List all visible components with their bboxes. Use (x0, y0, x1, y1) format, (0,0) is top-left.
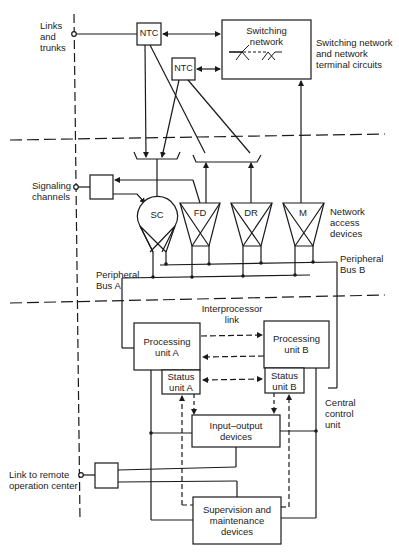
fd-label: FD (190, 207, 210, 218)
signaling-interface-box (90, 175, 113, 199)
section-divider-bottom (10, 295, 385, 303)
bus-b-label: Peripheral Bus B (340, 253, 383, 275)
switching-network-label: Switching network (222, 25, 311, 47)
input-output-label: Input–output devices (192, 420, 280, 442)
switching-section-label: Switching network and network terminal c… (316, 37, 393, 70)
dr-label: DR (241, 207, 261, 218)
sc-label: SC (147, 209, 167, 220)
links-trunks-label: Links and trunks (40, 20, 66, 53)
status-unit-b-label: Status unit B (265, 370, 304, 392)
ntc-1-label: NTC (137, 28, 161, 39)
processing-unit-a-label: Processing unit A (134, 336, 200, 358)
ntc-2-label: NTC (172, 63, 195, 74)
interprocessor-link-label: Interprocessor link (200, 303, 264, 325)
network-access-label: Network access devices (330, 206, 365, 239)
remote-link-label: Link to remote operation center (9, 469, 78, 491)
status-unit-a-label: Status unit A (162, 371, 200, 393)
remote-link-terminal (79, 473, 84, 478)
signaling-terminal (74, 185, 79, 190)
external-boundary-line (74, 14, 80, 520)
central-control-label: Central control unit (325, 397, 356, 430)
supervision-label: Supervision and maintenance devices (193, 504, 281, 537)
remote-link-interface-box (95, 463, 118, 488)
links-trunks-terminal (72, 32, 77, 37)
bus-a-label: Peripheral Bus A (96, 269, 139, 291)
m-label: M (293, 207, 313, 218)
processing-unit-b-label: Processing unit B (264, 333, 329, 355)
signaling-channels-label: Signaling channels (32, 180, 71, 202)
